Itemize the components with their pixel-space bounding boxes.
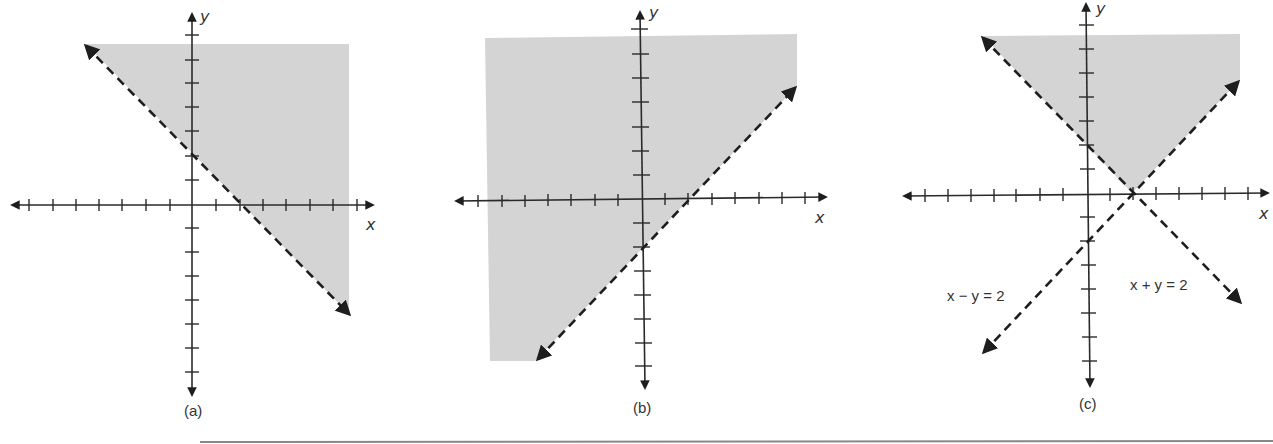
y-axis-label-c: y xyxy=(1095,0,1106,18)
panel-a: y x (a) xyxy=(12,7,376,419)
y-axis-label-a: y xyxy=(199,7,210,26)
equation-label-x-minus-y: x − y = 2 xyxy=(947,287,1005,304)
caption-b: (b) xyxy=(633,399,651,416)
x-axis-c xyxy=(904,187,1268,202)
y-axis-label-b: y xyxy=(648,3,659,22)
equation-label-x-plus-y: x + y = 2 xyxy=(1130,276,1188,293)
figure: y x (a) xyxy=(0,0,1273,444)
x-axis-label-b: x xyxy=(814,208,825,227)
x-axis-label-a: x xyxy=(365,215,376,234)
caption-c: (c) xyxy=(1079,395,1097,412)
panel-b: y x (b) xyxy=(456,3,826,416)
panel-c: y x x − y = 2 x + y = 2 (c) xyxy=(904,0,1269,412)
bottom-rule xyxy=(200,441,1273,442)
x-axis-label-c: x xyxy=(1258,204,1269,223)
caption-a: (a) xyxy=(184,402,202,419)
